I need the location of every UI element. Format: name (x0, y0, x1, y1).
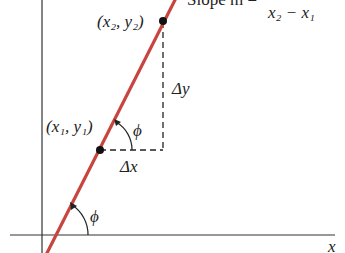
delta-y-label: Δy (172, 80, 190, 97)
angle-lower-label: ϕ (90, 208, 99, 225)
angle-arc-lower (72, 205, 88, 235)
slope-label: Slope m = (187, 0, 257, 8)
point-1-label: (x₁, y₁) (46, 118, 93, 135)
point-2-label: (x₂, y₂) (97, 13, 144, 30)
x-axis-label: x (328, 238, 336, 253)
angle-arc-upper (116, 122, 132, 150)
slope-denominator: x₂ − x₁ (268, 4, 315, 21)
point-1 (96, 146, 104, 154)
delta-x-label: Δx (120, 158, 138, 175)
point-2 (159, 17, 167, 25)
angle-upper-label: ϕ (133, 122, 142, 139)
